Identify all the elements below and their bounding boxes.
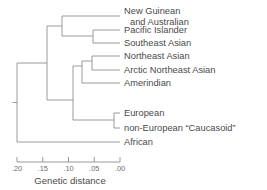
tip-label-southeast-asian: Southeast Asian [124, 38, 191, 48]
axis-tick-label-3: .05 [89, 164, 99, 173]
tip-labels: New Guinean and Australian Pacific Islan… [124, 6, 236, 147]
tip-label-arctic-northeast-asian: Arctic Northeast Asian [124, 65, 215, 75]
tip-label-european: European [124, 108, 164, 118]
dendrogram-figure: New Guinean and Australian Pacific Islan… [0, 0, 267, 190]
axis-tick-label-2: .10 [63, 164, 73, 173]
tip-label-non-european-caucasoid: non-European “Caucasoid” [124, 123, 236, 133]
dendrogram-svg: New Guinean and Australian Pacific Islan… [0, 0, 267, 190]
axis-tick-label-0: .20 [12, 164, 22, 173]
tip-label-amerindian: Amerindian [124, 78, 171, 88]
tip-label-northeast-asian: Northeast Asian [124, 51, 190, 61]
axis-title: Genetic distance [34, 175, 105, 186]
tip-label-african: African [124, 137, 153, 147]
tip-label-pacific-islander: Pacific Islander [124, 25, 187, 35]
axis-tick-label-4: .00 [115, 164, 125, 173]
tip-label-new-guinean-australian: New Guinean [124, 6, 180, 16]
axis-tick-label-1: .15 [38, 164, 48, 173]
tree-branches [13, 16, 121, 142]
x-axis: .20 .15 .10 .05 .00 Genetic distance [12, 157, 125, 186]
